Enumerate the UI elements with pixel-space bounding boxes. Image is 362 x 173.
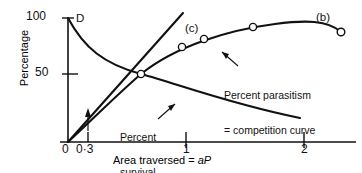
- curve-tag-d: D: [76, 12, 84, 25]
- marker-point-4: [337, 28, 345, 36]
- curve-tag-c: (c): [185, 22, 198, 35]
- marker-point-1: [178, 43, 185, 50]
- threshold-arrow-head: [85, 108, 91, 117]
- marker-intersection: [137, 70, 144, 77]
- curve-tag-b: (b): [316, 11, 330, 24]
- annotation-survival-line1: Percent: [120, 132, 156, 144]
- annotation-parasitism-line2: = competition curve: [224, 125, 315, 137]
- x-tick-label-0-3: 0·3: [76, 143, 93, 156]
- chart-figure: 100 50 0 0·3 1 2 Percentage Area travers…: [0, 0, 362, 173]
- annotation-survival: Percent survival: [120, 108, 156, 173]
- x-axis-label-math: aP: [198, 154, 211, 166]
- marker-point-3: [249, 23, 256, 30]
- annotation-parasitism: Percent parasitism = competition curve: [224, 66, 315, 160]
- y-axis-label: Percentage: [18, 14, 30, 102]
- x-tick-label-0: 0: [62, 143, 69, 156]
- y-tick-label-50: 50: [35, 66, 48, 79]
- x-axis-label-equals: =: [185, 154, 198, 166]
- annotation-survival-line2: survival: [120, 167, 156, 173]
- marker-point-2: [200, 35, 207, 42]
- arrowhead-parasitism: [222, 52, 229, 59]
- annotation-parasitism-line1: Percent parasitism: [224, 90, 315, 102]
